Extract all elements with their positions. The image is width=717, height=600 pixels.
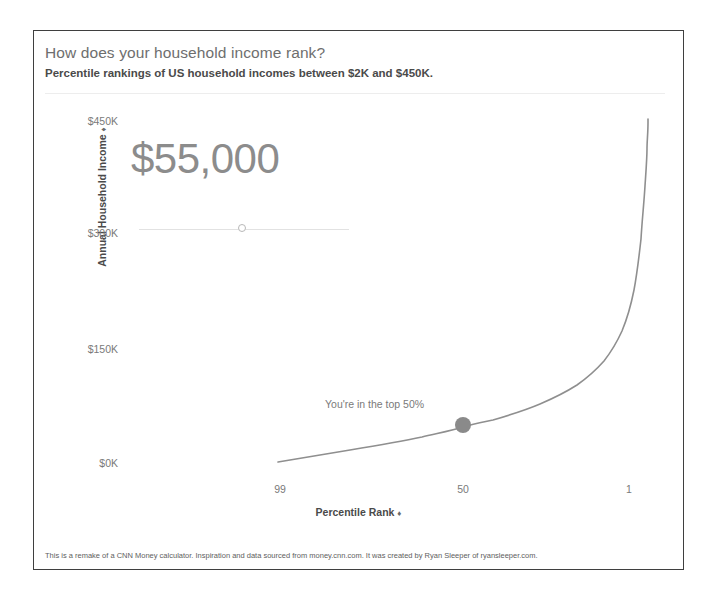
plot-area bbox=[34, 31, 683, 569]
slider-handle[interactable] bbox=[238, 224, 246, 232]
income-curve bbox=[278, 119, 648, 462]
page-title: How does your household income rank? bbox=[45, 43, 683, 63]
visualization-frame: How does your household income rank? Per… bbox=[33, 30, 684, 570]
income-value-display: $55,000 bbox=[131, 135, 279, 183]
y-tick-450k: $450K bbox=[34, 115, 118, 127]
x-tick-50: 50 bbox=[443, 483, 483, 495]
percentile-annotation: You're in the top 50% bbox=[325, 398, 424, 410]
header-divider bbox=[45, 93, 665, 94]
selected-point-marker bbox=[455, 417, 471, 433]
sort-ascending-icon[interactable]: ♦ bbox=[397, 509, 401, 518]
y-tick-300k: $300K bbox=[34, 227, 118, 239]
y-tick-150k: $150K bbox=[34, 343, 118, 355]
x-axis-title: Percentile Rank ♦ bbox=[34, 506, 683, 518]
y-tick-0k: $0K bbox=[34, 457, 118, 469]
x-tick-1: 1 bbox=[609, 483, 649, 495]
income-slider[interactable] bbox=[139, 223, 349, 237]
header: How does your household income rank? Per… bbox=[34, 31, 683, 81]
x-axis-title-label: Percentile Rank bbox=[316, 506, 395, 518]
y-axis-ticks: $450K $300K $150K $0K bbox=[34, 31, 118, 569]
x-tick-99: 99 bbox=[260, 483, 300, 495]
footer-caption: This is a remake of a CNN Money calculat… bbox=[45, 550, 665, 561]
page-subtitle: Percentile rankings of US household inco… bbox=[45, 65, 683, 81]
